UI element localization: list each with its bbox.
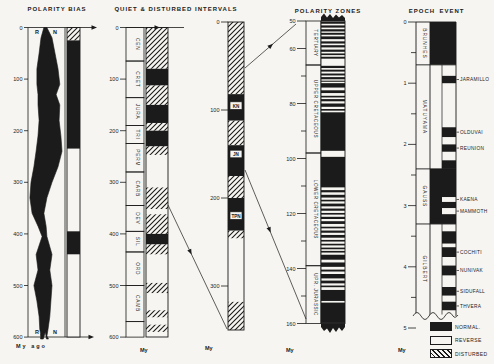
- qd-bar-hatch-segment: [146, 310, 168, 317]
- tick-label: 600: [13, 334, 22, 340]
- tick-label: 200: [13, 128, 22, 134]
- qd-bar-black-segment: [146, 105, 168, 123]
- qd-bar-white-segment: [146, 209, 168, 214]
- tick-label: 400: [13, 231, 22, 237]
- normal-zone-band: [321, 50, 345, 52]
- tick-label: 500: [109, 283, 118, 289]
- axis-unit-my-col2: My: [140, 347, 148, 353]
- detail-bar-hatch-segment: [228, 121, 244, 146]
- bias-bar-white-segment: [67, 149, 80, 232]
- qd-bar-hatch-segment: [146, 214, 168, 234]
- stage-label: UPR. JURASSIC: [313, 273, 318, 316]
- event-band-jaramillo: [442, 76, 456, 83]
- normal-zone-band: [321, 251, 345, 253]
- normal-zone-band: [321, 90, 345, 93]
- normal-zone-band: [321, 213, 345, 215]
- event-band-nunivak: [442, 266, 456, 276]
- normal-zone-band: [321, 262, 345, 266]
- normal-zone-band: [321, 200, 345, 202]
- tick-label: 60: [289, 46, 295, 52]
- qd-bar-hatch-segment: [146, 123, 168, 131]
- normal-zone-band: [321, 270, 345, 272]
- column-title-quiet-disturbed: QUIET & DISTURBED INTERVALS: [114, 6, 237, 12]
- qd-bar-white-segment: [146, 332, 168, 337]
- period-label-DEV: DEV: [135, 212, 140, 224]
- arrowhead: [89, 335, 95, 339]
- legend-label-disturbed: DISTURBED: [455, 351, 488, 357]
- tick-label: 600: [109, 334, 118, 340]
- event-band-unnamed: [442, 231, 456, 243]
- period-label-CEN: CEN: [135, 38, 140, 51]
- stage-label: TERTIARY: [313, 29, 318, 56]
- axis-unit-my-col3: My: [205, 345, 213, 351]
- tick-label: 100: [210, 107, 219, 113]
- arrowhead: [92, 25, 98, 29]
- tick-label: 50: [289, 18, 295, 24]
- tick-label: 160: [286, 321, 295, 327]
- normal-zone-band: [321, 57, 345, 59]
- normal-zone-band: [321, 53, 345, 55]
- tick-label: 4: [403, 264, 406, 270]
- event-label-jaramillo: JARAMILLO: [460, 77, 489, 82]
- arrowhead: [267, 227, 271, 233]
- tick-label: 2: [403, 141, 406, 147]
- normal-zone-band: [321, 45, 345, 47]
- normal-zone-band: [321, 77, 345, 79]
- event-band-olduvai: [442, 127, 456, 137]
- legend-label-normal: NORMAL.: [455, 324, 481, 330]
- normal-zone-band: [321, 274, 345, 278]
- zone-label-TPN: TPN: [231, 214, 241, 219]
- torn-bottom-edge: [321, 324, 345, 334]
- normal-zone-band: [321, 248, 345, 250]
- axis-unit-my-col4: My: [286, 347, 294, 353]
- event-band-reunion: [442, 144, 456, 151]
- qd-bar-hatch-segment: [146, 28, 168, 69]
- period-label-TRI: TRI: [135, 129, 140, 139]
- qd-bar-black-segment: [146, 69, 168, 86]
- normal-zone-band: [321, 157, 345, 188]
- normal-zone-band: [321, 244, 345, 246]
- event-label-mammoth: MAMMOTH: [460, 209, 488, 214]
- normal-zone-band: [321, 240, 345, 242]
- tick-label: 0: [115, 25, 118, 31]
- normal-zone-band: [321, 235, 345, 238]
- qd-bar-white-segment: [146, 255, 168, 283]
- tick-label: 300: [13, 179, 22, 185]
- tick-label: 120: [286, 211, 295, 217]
- normal-zone-band: [321, 70, 345, 72]
- qd-bar-hatch-segment: [146, 283, 168, 293]
- normal-zone-band: [321, 104, 345, 107]
- event-label-olduvai: OLDUVAI: [460, 130, 483, 135]
- event-label-thvera: THVERA: [460, 304, 482, 309]
- detail-column: 0100200300KNJNTPN: [210, 19, 244, 330]
- stage-label: UPPER CRETACEOUS: [313, 80, 318, 138]
- tick-label: 100: [286, 156, 295, 162]
- normal-zone-band: [321, 204, 345, 207]
- tick-label: 500: [13, 283, 22, 289]
- tick-label: 140: [286, 266, 295, 272]
- epoch-label-gauss: GAUSS: [422, 186, 427, 208]
- detail-bar-hatch-segment: [228, 231, 244, 239]
- tick-label: 5: [403, 325, 406, 331]
- event-label-cochiti: COCHITI: [460, 250, 482, 255]
- connector-col2-to-col3-bottom: [168, 205, 227, 329]
- normal-zone-band: [321, 227, 345, 229]
- period-label-ORD: ORD: [135, 262, 140, 275]
- normal-zone-band: [321, 221, 345, 224]
- normal-zone-band: [321, 99, 345, 101]
- period-label-JURA: JURA: [135, 104, 140, 120]
- epoch-label-brunhes: BRUNHES: [422, 28, 427, 58]
- event-label-nunivak: NUNIVAK: [460, 268, 484, 273]
- column-title-event: EVENT: [439, 8, 464, 14]
- r-label-bottom: R: [35, 329, 39, 335]
- qd-bar-white-segment: [146, 155, 168, 188]
- event-label-sidufall: SIDUFALL: [460, 289, 485, 294]
- event-label-kaena: KAENA: [460, 197, 478, 202]
- epoch-label-gilbert: GILBERT: [422, 256, 427, 283]
- detail-bar-white-segment: [228, 238, 244, 301]
- tick-label: 100: [13, 76, 22, 82]
- r-label-top: R: [35, 29, 39, 35]
- normal-zone-band: [321, 190, 345, 192]
- normal-zone-band: [321, 22, 345, 24]
- normal-zone-band: [321, 33, 345, 35]
